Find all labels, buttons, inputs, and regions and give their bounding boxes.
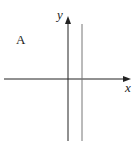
y-axis-arrow-icon <box>65 16 71 24</box>
x-axis-label: x <box>125 80 131 96</box>
panel-label: A <box>16 32 25 48</box>
coordinate-plane <box>0 0 140 141</box>
y-axis-label: y <box>57 7 63 23</box>
